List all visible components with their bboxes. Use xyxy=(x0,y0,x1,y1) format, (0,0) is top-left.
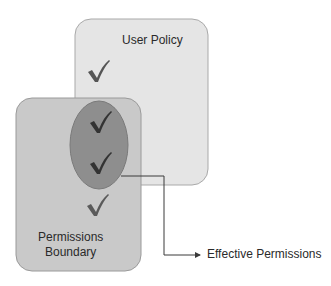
user-policy-label: User Policy xyxy=(122,33,183,47)
permissions-boundary-label-line2: Boundary xyxy=(45,245,96,259)
permissions-boundary-label-line1: Permissions xyxy=(38,230,103,244)
intersection-ellipse xyxy=(70,101,128,189)
effective-permissions-label: Effective Permissions xyxy=(207,247,322,261)
